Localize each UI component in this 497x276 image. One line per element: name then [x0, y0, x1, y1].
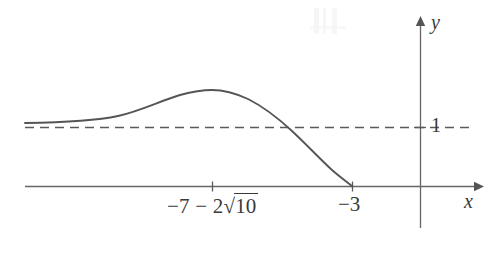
x-axis [25, 182, 484, 191]
x-tick-label-minus-three: −3 [338, 192, 360, 217]
graph-canvas [0, 0, 497, 276]
graph-figure: y x 1 −3 −7 − 2√10 [0, 0, 497, 276]
root-label-prefix: −7 − 2 [167, 194, 223, 218]
radicand-value: 10 [234, 193, 257, 219]
radical-group: √10 [223, 192, 257, 219]
x-tick-label-root-expression: −7 − 2√10 [167, 192, 258, 219]
y-axis-label: y [431, 11, 440, 34]
y-tick-label-one: 1 [431, 114, 441, 137]
y-axis-arrowhead [416, 16, 425, 26]
x-axis-arrowhead [474, 182, 484, 191]
y-axis [416, 16, 425, 228]
function-curve [25, 90, 353, 187]
x-axis-label: x [464, 190, 473, 213]
